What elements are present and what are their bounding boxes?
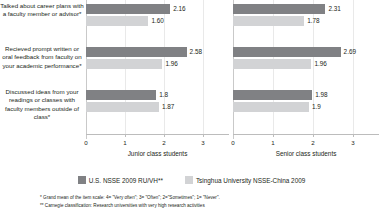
- bar: [86, 16, 148, 26]
- bar-value-label: 1.60: [151, 16, 163, 26]
- bar: [233, 59, 311, 69]
- panel-senior-plot: 01232.312.691.981.781.961.9: [233, 0, 379, 134]
- tick-label: 3: [351, 139, 354, 146]
- panel-junior-plot: 01232.162.581.81.601.961.87: [86, 0, 229, 134]
- legend-item-tsinghua: Tsinghua University NSSE-China 2009: [185, 176, 305, 184]
- legend-item-us: U.S. NSSE 2009 RU/VH**: [78, 176, 163, 184]
- gridline: [203, 0, 204, 134]
- bar-chart: Talked about career plans with a faculty…: [0, 0, 383, 220]
- bar-value-label: 1.9: [312, 102, 321, 112]
- footnotes: * Grand mean of the item scale: 4= "Very…: [40, 194, 370, 210]
- legend-label: Tsinghua University NSSE-China 2009: [196, 177, 305, 184]
- tick-label: 1: [123, 139, 126, 146]
- footnote: ** Carnegie classification: Research uni…: [40, 202, 370, 210]
- tick-label: 3: [201, 139, 204, 146]
- legend-swatch-icon: [78, 176, 86, 184]
- panel-senior: 01232.312.691.981.781.961.9 Senior class…: [233, 0, 379, 160]
- tick-label: 2: [311, 139, 314, 146]
- bar: [233, 47, 341, 57]
- bar: [86, 4, 170, 14]
- bar-value-label: 2.16: [173, 4, 185, 14]
- legend-label: U.S. NSSE 2009 RU/VH**: [89, 177, 163, 184]
- bar-value-label: 2.58: [190, 47, 202, 57]
- bar-value-label: 1.8: [159, 90, 168, 100]
- panel-junior: 01232.162.581.81.601.961.87 Junior class…: [86, 0, 229, 160]
- bar: [233, 16, 304, 26]
- bar: [86, 59, 162, 69]
- tick-label: 1: [271, 139, 274, 146]
- bar: [233, 90, 312, 100]
- legend-swatch-icon: [185, 176, 193, 184]
- category-labels: Talked about career plans with a faculty…: [0, 0, 84, 134]
- bar: [233, 4, 325, 14]
- bar: [86, 47, 187, 57]
- plot-area: Talked about career plans with a faculty…: [0, 0, 383, 160]
- category-label: Recieved prompt written or oral feedback…: [0, 45, 84, 70]
- axis-title-senior: Senior class students: [233, 150, 379, 157]
- bar-value-label: 2.69: [344, 47, 356, 57]
- x-axis-line: [86, 134, 229, 135]
- axis-title-junior: Junior class students: [86, 150, 229, 157]
- bar-value-label: 1.87: [162, 102, 174, 112]
- bar-value-label: 1.98: [315, 90, 327, 100]
- footnote: * Grand mean of the item scale: 4= "Very…: [40, 194, 370, 202]
- tick-label: 0: [84, 139, 87, 146]
- tick-label: 0: [231, 139, 234, 146]
- x-axis-line: [233, 134, 379, 135]
- bar: [86, 102, 159, 112]
- legend: U.S. NSSE 2009 RU/VH** Tsinghua Universi…: [0, 174, 383, 186]
- gridline: [353, 0, 354, 134]
- bar-value-label: 1.78: [307, 16, 319, 26]
- category-label: Discussed ideas from your readings or cl…: [0, 88, 84, 121]
- bar-value-label: 2.31: [328, 4, 340, 14]
- category-label: Talked about career plans with a faculty…: [0, 2, 84, 19]
- bar-value-label: 1.96: [165, 59, 177, 69]
- bar: [86, 90, 156, 100]
- bar-value-label: 1.96: [314, 59, 326, 69]
- bar: [233, 102, 309, 112]
- tick-label: 2: [162, 139, 165, 146]
